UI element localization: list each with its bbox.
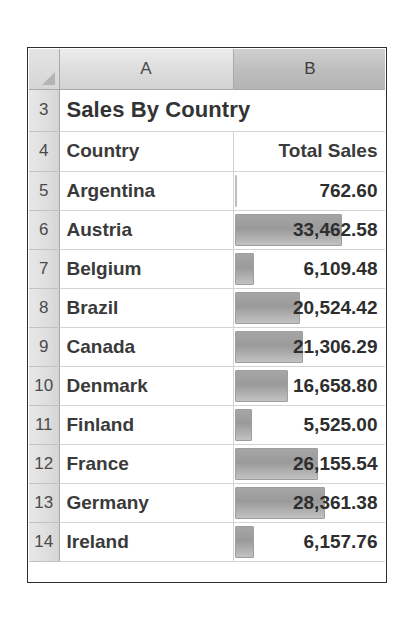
row-header-3[interactable]: 3 — [29, 89, 59, 131]
spreadsheet-viewport: AB3Sales By Country4CountryTotal Sales5A… — [29, 49, 385, 581]
total-sales-cell[interactable]: 5,525.00 — [233, 405, 385, 444]
total-sales-value: 6,109.48 — [234, 250, 386, 288]
select-all-triangle-icon — [42, 72, 55, 85]
column-header-b[interactable]: B — [233, 49, 385, 89]
total-sales-cell[interactable]: 33,462.58 — [233, 210, 385, 249]
total-sales-value: 21,306.29 — [234, 328, 386, 366]
table-row: 11Finland5,525.00 — [29, 405, 385, 444]
total-sales-cell[interactable]: 26,155.54 — [233, 444, 385, 483]
column-header-total-sales[interactable]: Total Sales — [233, 131, 385, 171]
total-sales-value: 6,157.76 — [234, 523, 386, 561]
row-header-10[interactable]: 10 — [29, 366, 59, 405]
total-sales-value: 5,525.00 — [234, 406, 386, 444]
worksheet-grid: AB3Sales By Country4CountryTotal Sales5A… — [29, 49, 385, 562]
total-sales-value: 26,155.54 — [234, 445, 386, 483]
column-header-row: AB — [29, 49, 385, 89]
country-cell[interactable]: Finland — [59, 405, 233, 444]
country-cell[interactable]: Belgium — [59, 249, 233, 288]
total-sales-value: 33,462.58 — [234, 211, 386, 249]
table-row: 6Austria33,462.58 — [29, 210, 385, 249]
total-sales-cell[interactable]: 28,361.38 — [233, 483, 385, 522]
country-cell[interactable]: France — [59, 444, 233, 483]
row-header-5[interactable]: 5 — [29, 171, 59, 210]
table-row: 10Denmark16,658.80 — [29, 366, 385, 405]
table-row: 13Germany28,361.38 — [29, 483, 385, 522]
table-row: 9Canada21,306.29 — [29, 327, 385, 366]
table-header-row: 4CountryTotal Sales — [29, 131, 385, 171]
total-sales-value: 20,524.42 — [234, 289, 386, 327]
total-sales-cell[interactable]: 6,157.76 — [233, 522, 385, 561]
country-cell[interactable]: Denmark — [59, 366, 233, 405]
row-header-9[interactable]: 9 — [29, 327, 59, 366]
column-header-country[interactable]: Country — [59, 131, 233, 171]
row-header-12[interactable]: 12 — [29, 444, 59, 483]
total-sales-cell[interactable]: 21,306.29 — [233, 327, 385, 366]
total-sales-value: 762.60 — [234, 172, 386, 210]
row-header-13[interactable]: 13 — [29, 483, 59, 522]
table-row: 8Brazil20,524.42 — [29, 288, 385, 327]
total-sales-cell[interactable]: 20,524.42 — [233, 288, 385, 327]
country-cell[interactable]: Germany — [59, 483, 233, 522]
column-header-a[interactable]: A — [59, 49, 233, 89]
row-header-6[interactable]: 6 — [29, 210, 59, 249]
country-cell[interactable]: Canada — [59, 327, 233, 366]
table-row: 12France26,155.54 — [29, 444, 385, 483]
table-row: 7Belgium6,109.48 — [29, 249, 385, 288]
spreadsheet-frame: AB3Sales By Country4CountryTotal Sales5A… — [27, 47, 387, 583]
country-cell[interactable]: Ireland — [59, 522, 233, 561]
country-cell[interactable]: Brazil — [59, 288, 233, 327]
table-row: 14Ireland6,157.76 — [29, 522, 385, 561]
row-header-8[interactable]: 8 — [29, 288, 59, 327]
total-sales-value: 28,361.38 — [234, 484, 386, 522]
title-row: 3Sales By Country — [29, 89, 385, 131]
country-cell[interactable]: Austria — [59, 210, 233, 249]
total-sales-cell[interactable]: 16,658.80 — [233, 366, 385, 405]
select-all-button[interactable] — [29, 49, 59, 89]
total-sales-value: 16,658.80 — [234, 367, 386, 405]
row-header-7[interactable]: 7 — [29, 249, 59, 288]
row-header-4[interactable]: 4 — [29, 131, 59, 171]
country-cell[interactable]: Argentina — [59, 171, 233, 210]
table-row: 5Argentina762.60 — [29, 171, 385, 210]
row-header-14[interactable]: 14 — [29, 522, 59, 561]
total-sales-cell[interactable]: 6,109.48 — [233, 249, 385, 288]
row-header-11[interactable]: 11 — [29, 405, 59, 444]
sheet-title-cell[interactable]: Sales By Country — [59, 89, 385, 131]
total-sales-cell[interactable]: 762.60 — [233, 171, 385, 210]
